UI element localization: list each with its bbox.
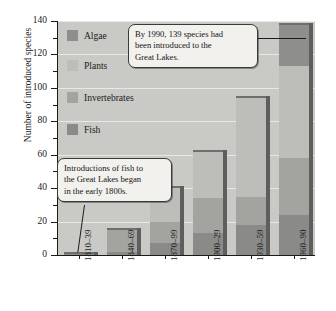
gridline — [58, 155, 315, 156]
legend-item-plants[interactable]: Plants — [67, 60, 107, 71]
y-tick — [51, 54, 57, 55]
x-tick-label: 1810–39 — [83, 230, 93, 262]
bar-shadow — [180, 186, 184, 255]
x-tick-label: 1960–90 — [298, 230, 308, 262]
bar-top-edge — [279, 23, 309, 25]
x-tick-label: 1870–99 — [169, 230, 179, 262]
y-tick-label: 100 — [21, 83, 47, 93]
x-tick — [165, 255, 166, 259]
bar-segment-plants — [279, 66, 309, 158]
callout-bottom-line2: the Great Lakes began — [64, 174, 165, 185]
bar-segment-plants — [193, 150, 223, 198]
x-axis-line — [57, 255, 315, 256]
callout-bottom-line1: Introductions of fish to — [64, 163, 165, 174]
plants-swatch — [67, 60, 78, 71]
y-tick-minor — [53, 205, 57, 206]
y-tick-label: 20 — [21, 217, 47, 227]
callout-top-line1: By 1990, 139 species had — [135, 29, 251, 40]
x-tick-label: 1930–59 — [255, 230, 265, 262]
y-tick — [51, 155, 57, 156]
callout-top-line2: been introduced to the — [135, 40, 251, 51]
y-tick-minor — [53, 138, 57, 139]
y-tick-minor — [53, 238, 57, 239]
y-tick-label: 0 — [21, 250, 47, 260]
y-tick — [51, 121, 57, 122]
callout-bottom-line3: in the early 1800s. — [64, 186, 165, 197]
legend-item-invertebrates[interactable]: Invertebrates — [67, 92, 134, 103]
y-tick — [51, 88, 57, 89]
x-tick — [208, 255, 209, 259]
legend-label-algae: Algae — [84, 31, 107, 41]
callout-bottom[interactable]: Introductions of fish to the Great Lakes… — [57, 158, 172, 202]
x-tick-label: 1900–29 — [212, 230, 222, 262]
bar-segment-invertebrates — [236, 197, 266, 225]
y-tick-label: 120 — [21, 49, 47, 59]
legend-label-plants: Plants — [84, 61, 107, 71]
x-tick — [251, 255, 252, 259]
bar-1960–90[interactable] — [279, 23, 309, 255]
x-tick — [122, 255, 123, 259]
bar-top-edge — [236, 96, 266, 98]
y-tick — [51, 255, 57, 256]
bar-segment-plants — [236, 96, 266, 196]
legend-item-algae[interactable]: Algae — [67, 30, 107, 41]
y-tick-minor — [53, 71, 57, 72]
bar-shadow — [223, 150, 227, 255]
y-tick-label: 80 — [21, 116, 47, 126]
x-tick — [294, 255, 295, 259]
y-tick-label: 40 — [21, 183, 47, 193]
bar-segment-algae — [279, 23, 309, 66]
legend-label-fish: Fish — [84, 125, 100, 135]
gridline — [58, 222, 315, 223]
legend-item-fish[interactable]: Fish — [67, 124, 100, 135]
invertebrates-swatch — [67, 92, 78, 103]
bar-shadow — [266, 96, 270, 255]
chart-figure: Number of introduced species 02040608010… — [0, 0, 336, 311]
bar-top-edge — [193, 150, 223, 152]
y-axis-line — [57, 21, 58, 255]
y-tick-minor — [53, 105, 57, 106]
y-tick — [51, 222, 57, 223]
callout-top-line3: Great Lakes. — [135, 52, 251, 63]
gridline — [58, 121, 315, 122]
y-tick-minor — [53, 38, 57, 39]
algae-swatch — [67, 30, 78, 41]
bar-segment-invertebrates — [279, 158, 309, 215]
fish-swatch — [67, 124, 78, 135]
legend-label-invertebrates: Invertebrates — [84, 93, 134, 103]
bar-shadow — [137, 228, 141, 255]
bar-shadow — [309, 23, 313, 255]
y-tick — [51, 21, 57, 22]
y-tick-label: 60 — [21, 150, 47, 160]
x-tick-label: 1840–69 — [126, 230, 136, 262]
callout-top[interactable]: By 1990, 139 species had been introduced… — [128, 24, 258, 68]
gridline — [58, 21, 315, 22]
gridline — [58, 88, 315, 89]
x-tick — [79, 255, 80, 259]
y-tick-label: 140 — [21, 16, 47, 26]
